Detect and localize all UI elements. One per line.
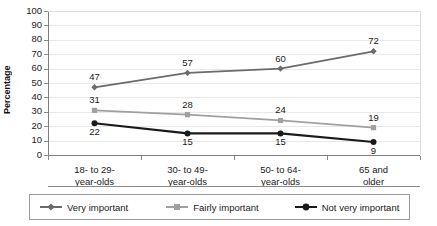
data-label: 60: [268, 54, 294, 64]
data-point-marker: [302, 204, 309, 211]
legend: Very important Fairly important Not very…: [29, 194, 410, 220]
legend-item-0[interactable]: Very important: [30, 202, 128, 213]
legend-item-1[interactable]: Fairly important: [156, 202, 258, 213]
data-label: 15: [175, 137, 201, 147]
data-label: 47: [82, 72, 108, 82]
data-label: 19: [361, 113, 387, 123]
data-label: 28: [175, 100, 201, 110]
data-point-marker: [278, 118, 283, 123]
data-point-marker: [92, 108, 97, 113]
legend-marker-diamond-icon: [40, 206, 62, 208]
legend-marker-circle-icon: [295, 206, 317, 208]
data-label: 31: [82, 95, 108, 105]
data-point-marker: [47, 203, 54, 210]
data-label: 22: [82, 127, 108, 137]
data-label: 15: [268, 137, 294, 147]
data-label: 24: [268, 105, 294, 115]
line-chart: Percentage 1009080706050403020100 18- to…: [0, 0, 437, 226]
series-line: [95, 110, 374, 127]
legend-label: Very important: [67, 202, 128, 213]
data-label: 9: [361, 146, 387, 156]
data-point-marker: [174, 204, 180, 210]
data-label: 72: [361, 36, 387, 46]
legend-label: Fairly important: [193, 202, 258, 213]
data-point-marker: [91, 84, 97, 90]
data-point-marker: [184, 70, 190, 76]
series-line: [95, 123, 374, 142]
series-line: [95, 51, 374, 87]
legend-marker-square-icon: [166, 206, 188, 208]
data-point-marker: [185, 112, 190, 117]
data-point-marker: [371, 125, 376, 130]
data-label: 57: [175, 58, 201, 68]
legend-item-2[interactable]: Not very important: [285, 202, 400, 213]
data-point-marker: [370, 48, 376, 54]
data-point-marker: [277, 65, 283, 71]
legend-label: Not very important: [322, 202, 400, 213]
